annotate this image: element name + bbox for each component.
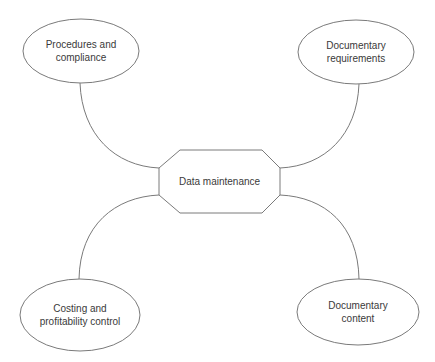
connector-bottom-left (79, 195, 159, 279)
label-line: Costing and (40, 302, 121, 315)
label-line: Documentary (328, 299, 387, 312)
center-text: Data maintenance (179, 175, 260, 188)
label-line: content (328, 312, 387, 325)
connector-top-right (280, 84, 359, 168)
label-line: profitability control (40, 315, 121, 328)
label-line: compliance (46, 51, 117, 64)
label-line: requirements (326, 52, 385, 65)
label-line: Procedures and (46, 38, 117, 51)
node-procedures-label: Procedures and compliance (23, 19, 139, 83)
label-line: Documentary (326, 39, 385, 52)
connector-top-left (80, 83, 159, 168)
node-documentary-content-label: Documentary content (297, 279, 419, 345)
node-costing-label: Costing and profitability control (20, 279, 140, 351)
connector-bottom-right (280, 195, 359, 279)
node-documentary-requirements-label: Documentary requirements (298, 20, 414, 84)
center-label: Data maintenance (159, 150, 280, 213)
